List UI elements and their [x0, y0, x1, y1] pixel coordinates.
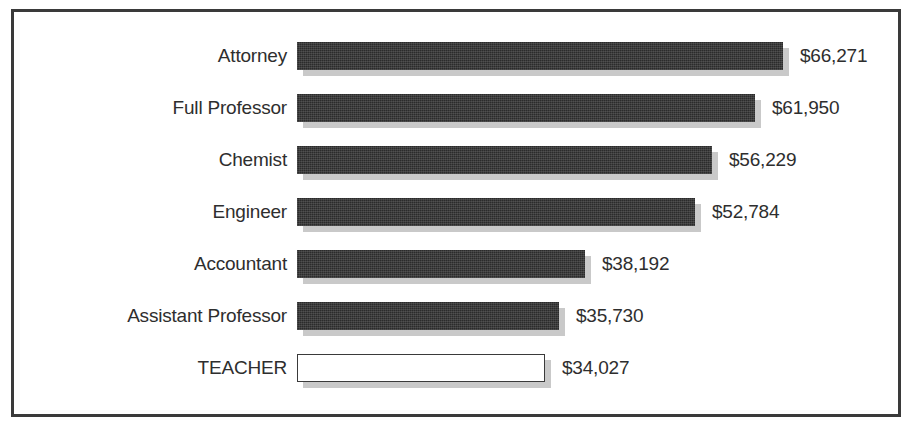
category-label: Engineer [14, 198, 297, 226]
bar-container [297, 354, 545, 382]
value-label: $35,730 [576, 302, 643, 330]
bar-container [297, 146, 712, 174]
bar [297, 94, 755, 122]
bar [297, 146, 712, 174]
bar-container [297, 250, 585, 278]
bar-container [297, 42, 783, 70]
bar-container [297, 302, 559, 330]
bar-container [297, 198, 695, 226]
bar [297, 302, 559, 330]
category-label: Full Professor [14, 94, 297, 122]
bar [297, 42, 783, 70]
bar-container [297, 94, 755, 122]
chart-frame: Attorney$66,271Full Professor$61,950Chem… [11, 9, 901, 417]
category-label: Chemist [14, 146, 297, 174]
bar-row: Engineer$52,784 [14, 198, 898, 226]
bar-chart-plot-area: Attorney$66,271Full Professor$61,950Chem… [14, 12, 898, 414]
category-label: Attorney [14, 42, 297, 70]
bar-row: Chemist$56,229 [14, 146, 898, 174]
bar-row: Attorney$66,271 [14, 42, 898, 70]
value-label: $52,784 [712, 198, 779, 226]
bar [297, 198, 695, 226]
value-label: $56,229 [729, 146, 796, 174]
value-label: $34,027 [562, 354, 629, 382]
bar [297, 250, 585, 278]
bar-row: Assistant Professor$35,730 [14, 302, 898, 330]
bar-row: Full Professor$61,950 [14, 94, 898, 122]
value-label: $38,192 [602, 250, 669, 278]
bar-row: Accountant$38,192 [14, 250, 898, 278]
category-label: Assistant Professor [14, 302, 297, 330]
bar-row: TEACHER$34,027 [14, 354, 898, 382]
category-label: TEACHER [14, 354, 297, 382]
category-label: Accountant [14, 250, 297, 278]
value-label: $61,950 [772, 94, 839, 122]
value-label: $66,271 [800, 42, 867, 70]
bar-highlighted [297, 354, 545, 382]
